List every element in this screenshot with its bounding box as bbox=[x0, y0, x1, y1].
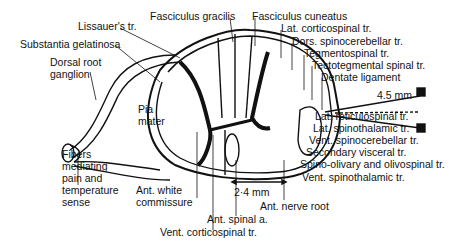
label-spino-olivary: Spino-olivary and olivospinal tr. bbox=[300, 158, 445, 170]
label-secondary-visceral: Secondary visceral tr. bbox=[306, 146, 406, 158]
label-pia-mater: Pia mater bbox=[138, 103, 165, 127]
label-dorsal-root-ganglion: Dorsal root ganglion bbox=[50, 56, 101, 80]
label-dentate-ligament: Dentate ligament bbox=[321, 71, 400, 83]
label-vent-spinocerebellar: Vent. spinocerebellar tr. bbox=[309, 134, 419, 146]
label-lat-reticulospinal: Lat. reticulospinal tr. bbox=[315, 110, 408, 122]
label-measure-2-4mm: 2·4 mm bbox=[234, 186, 270, 198]
label-fibers-pain-temperature: Fibers mediating pain and temperature se… bbox=[62, 148, 119, 208]
label-ant-white-commissure: Ant. white commissure bbox=[136, 184, 193, 208]
label-fasciculus-gracilis: Fasciculus gracilis bbox=[150, 10, 235, 22]
label-tectotegmental-spinal: Tectotegmental spinal tr. bbox=[312, 59, 425, 71]
label-fasciculus-cuneatus: Fasciculus cuneatus bbox=[252, 10, 347, 22]
label-measure-4-5mm: 4.5 mm bbox=[377, 89, 412, 101]
label-tegmentospinal: Tegmentospinal tr. bbox=[304, 47, 389, 59]
label-ant-nerve-root: Ant. nerve root bbox=[260, 200, 329, 212]
label-lat-corticospinal: Lat. corticospinal tr. bbox=[281, 22, 371, 34]
label-dors-spinocerebellar: Dors. spinocerebellar tr. bbox=[292, 35, 403, 47]
label-ant-spinal-artery: Ant. spinal a. bbox=[207, 213, 268, 225]
label-vent-corticospinal: Vent. corticospinal tr. bbox=[160, 226, 257, 238]
label-lat-spinothalamic: Lat. spinothalamic tr. bbox=[313, 122, 409, 134]
label-vent-spinothalamic: Vent. spinothalamic tr. bbox=[302, 171, 405, 183]
label-lissauers-tract: Lissauer's tr. bbox=[78, 20, 137, 32]
spinal-cord-diagram: Fasciculus gracilis Fasciculus cuneatus … bbox=[0, 0, 466, 244]
label-substantia-gelatinosa: Substantia gelatinosa bbox=[20, 38, 120, 50]
